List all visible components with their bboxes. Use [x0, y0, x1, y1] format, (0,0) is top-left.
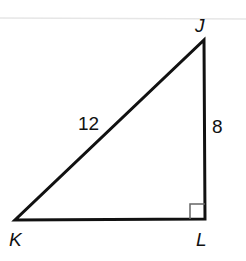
side-label-jl: 8	[212, 116, 223, 137]
right-angle-marker	[190, 204, 205, 219]
vertex-label-k: K	[9, 229, 23, 250]
top-rule-line	[0, 18, 246, 19]
side-label-kj: 12	[78, 113, 99, 134]
triangle-diagram: J K L 12 8	[0, 0, 246, 261]
vertex-label-l: L	[196, 229, 207, 250]
vertex-label-j: J	[194, 15, 205, 36]
triangle-jkl	[15, 40, 205, 220]
